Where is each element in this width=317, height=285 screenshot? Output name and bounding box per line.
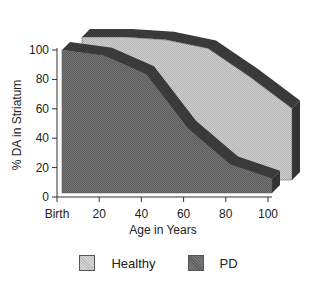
y-tick-label: 40 — [36, 131, 50, 145]
y-tick-label: 0 — [42, 190, 49, 204]
x-tick-label: 60 — [177, 207, 191, 221]
legend-swatch-pd — [188, 255, 204, 271]
y-tick-label: 60 — [36, 102, 50, 116]
series-layer — [62, 29, 300, 193]
y-tick-label: 20 — [36, 161, 50, 175]
x-tick-label: 40 — [135, 207, 149, 221]
area-chart: 020406080100Birth20406080100Age in Years… — [0, 0, 317, 250]
legend-label-healthy: Healthy — [111, 256, 155, 271]
legend: Healthy PD — [0, 255, 317, 271]
legend-label-pd: PD — [220, 256, 238, 271]
legend-item-healthy: Healthy — [79, 255, 155, 271]
x-axis-title: Age in Years — [129, 223, 196, 237]
legend-item-pd: PD — [188, 255, 238, 271]
y-tick-label: 100 — [29, 43, 49, 57]
x-tick-label: 100 — [258, 207, 278, 221]
x-tick-label: 80 — [219, 207, 233, 221]
y-axis-title: % DA in Striatum — [10, 80, 24, 171]
x-tick-label: Birth — [45, 207, 70, 221]
x-tick-label: 20 — [93, 207, 107, 221]
y-tick-label: 80 — [36, 72, 50, 86]
legend-swatch-healthy — [79, 255, 95, 271]
